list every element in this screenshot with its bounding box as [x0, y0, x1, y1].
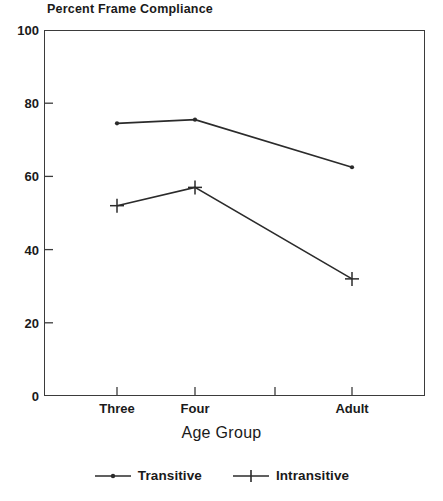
y-tick-label: 100 — [3, 23, 39, 38]
x-axis-title-text: Age Group — [181, 424, 261, 442]
y-tick-label: 40 — [3, 242, 39, 257]
x-tick-label-adult: Adult — [335, 401, 368, 416]
legend-entry-intransitive: Intransitive — [232, 468, 349, 483]
chart-legend: Transitive Intransitive — [0, 468, 443, 483]
x-tick-label-three: Three — [99, 401, 134, 416]
plus-marker-icon — [232, 469, 270, 483]
legend-label-intransitive: Intransitive — [276, 468, 349, 483]
dot-marker-icon — [94, 469, 132, 483]
y-tick-label: 20 — [3, 315, 39, 330]
y-tick-label: 80 — [3, 96, 39, 111]
legend-label-transitive: Transitive — [138, 468, 202, 483]
legend-entry-transitive: Transitive — [94, 468, 202, 483]
y-tick-label: 60 — [3, 169, 39, 184]
x-axis-title: Age Group — [0, 424, 443, 442]
x-tick-label-four: Four — [181, 401, 210, 416]
chart-figure: Percent Frame Compliance 100 80 60 40 20… — [0, 0, 443, 501]
plot-area — [44, 30, 425, 396]
chart-title: Percent Frame Compliance — [47, 2, 213, 16]
x-axis: Three Four Adult — [0, 401, 443, 421]
